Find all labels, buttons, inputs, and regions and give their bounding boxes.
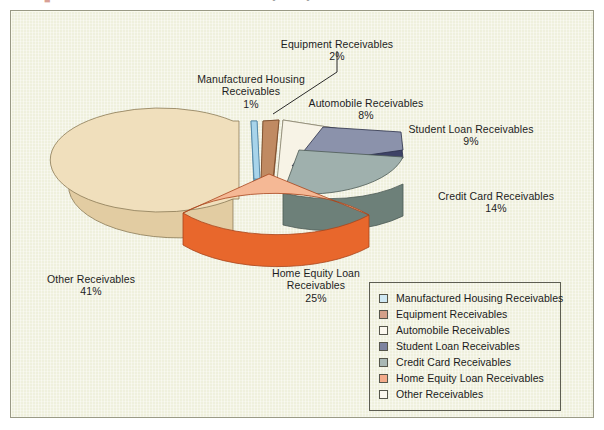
slice-label-manufactured-housing-pct: 1% — [186, 98, 316, 111]
slice-label-other-receivables-pct: 41% — [31, 285, 151, 298]
legend-label-manufactured-housing: Manufactured Housing Receivables — [396, 292, 563, 304]
pie-slice-other-receivables[interactable] — [50, 108, 239, 238]
clipped-header-sliver: ■ • • — [0, 0, 604, 6]
legend-item-manufactured-housing[interactable]: Manufactured Housing Receivables — [379, 290, 552, 306]
legend-swatch-manufactured-housing — [379, 294, 388, 303]
legend-swatch-credit-card — [379, 358, 388, 367]
slice-label-manufactured-housing: Manufactured Housing Receivables 1% — [186, 60, 316, 123]
slice-label-other-receivables: Other Receivables 41% — [31, 260, 151, 310]
slice-label-credit-card: Credit Card Receivables 14% — [426, 177, 566, 227]
legend-item-home-equity-loan[interactable]: Home Equity Loan Receivables — [379, 370, 552, 386]
slice-label-credit-card-name: Credit Card Receivables — [438, 190, 554, 202]
legend-swatch-equipment — [379, 310, 388, 319]
legend-item-equipment[interactable]: Equipment Receivables — [379, 306, 552, 322]
slice-label-student-loan: Student Loan Receivables 9% — [396, 110, 546, 160]
legend-label-credit-card: Credit Card Receivables — [396, 356, 511, 368]
clipped-glyph-mid: • — [272, 0, 276, 5]
slice-label-automobile-name: Automobile Receivables — [309, 97, 424, 109]
slice-label-other-receivables-name: Other Receivables — [47, 273, 135, 285]
slice-label-equipment-name: Equipment Receivables — [281, 38, 393, 50]
legend-item-credit-card[interactable]: Credit Card Receivables — [379, 354, 552, 370]
slice-label-student-loan-name: Student Loan Receivables — [409, 123, 534, 135]
clipped-glyph-left: ■ — [44, 0, 51, 5]
pie-slice-manufactured-housing[interactable] — [251, 121, 260, 187]
slice-label-credit-card-pct: 14% — [426, 202, 566, 215]
legend-swatch-other-receivables — [379, 390, 388, 399]
chart-frame: Equipment Receivables 2% Manufactured Ho… — [10, 10, 594, 418]
legend-swatch-automobile — [379, 326, 388, 335]
legend-item-student-loan[interactable]: Student Loan Receivables — [379, 338, 552, 354]
legend-label-equipment: Equipment Receivables — [396, 308, 507, 320]
slice-label-home-equity-loan-name: Home Equity Loan Receivables — [272, 267, 360, 292]
clipped-glyph-right: • — [306, 0, 310, 5]
legend-label-automobile: Automobile Receivables — [396, 324, 510, 336]
legend-label-home-equity-loan: Home Equity Loan Receivables — [396, 372, 544, 384]
chart-legend: Manufactured Housing Receivables Equipme… — [369, 282, 561, 411]
legend-label-other-receivables: Other Receivables — [396, 388, 483, 400]
legend-item-other-receivables[interactable]: Other Receivables — [379, 386, 552, 402]
legend-swatch-student-loan — [379, 342, 388, 351]
slice-label-home-equity-loan-pct: 25% — [251, 292, 381, 305]
slice-label-home-equity-loan: Home Equity Loan Receivables 25% — [251, 254, 381, 317]
legend-swatch-home-equity-loan — [379, 374, 388, 383]
slice-label-student-loan-pct: 9% — [396, 135, 546, 148]
slice-label-manufactured-housing-name: Manufactured Housing Receivables — [197, 73, 305, 98]
pie-chart-plot-area: Equipment Receivables 2% Manufactured Ho… — [11, 11, 593, 417]
legend-label-student-loan: Student Loan Receivables — [396, 340, 520, 352]
legend-item-automobile[interactable]: Automobile Receivables — [379, 322, 552, 338]
